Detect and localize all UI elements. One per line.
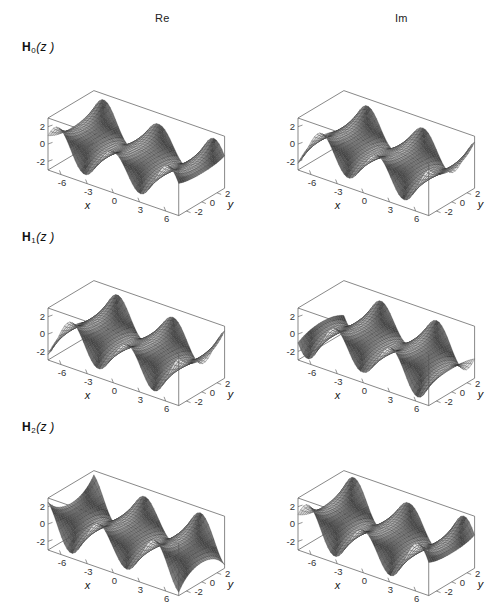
y-tick-label: -2 (444, 586, 452, 597)
z-axis: -202 (287, 311, 303, 357)
z-tick-label: -2 (287, 536, 295, 547)
x-tick-label: -6 (308, 557, 316, 568)
x-tick-label: -3 (84, 186, 92, 197)
surface-mesh (48, 475, 225, 593)
x-tick-label: 0 (112, 195, 117, 206)
y-axis-title: y (477, 578, 485, 590)
x-tick-label: -6 (308, 177, 316, 188)
x-tick-label: 0 (362, 195, 367, 206)
z-axis: -202 (37, 501, 53, 547)
surface-svg: -202-6-3036x-202y (14, 396, 246, 574)
z-axis: -202 (37, 121, 53, 167)
surface-mesh (298, 477, 475, 575)
surface-mesh (298, 106, 475, 200)
y-axis-title: y (227, 578, 235, 590)
z-tick-label: 2 (40, 311, 45, 322)
z-tick-label: 0 (40, 518, 45, 529)
x-tick-label: 0 (362, 385, 367, 396)
z-tick-label: 2 (290, 501, 295, 512)
surface-svg: -202-6-3036x-202y (14, 16, 246, 194)
y-tick-label: -2 (194, 586, 202, 597)
z-tick-label: -2 (287, 156, 295, 167)
z-tick-label: 2 (290, 311, 295, 322)
surface-panel-h2-re: -202-6-3036x-202y (14, 396, 246, 574)
y-tick-label: 0 (210, 577, 215, 588)
z-tick-label: -2 (287, 346, 295, 357)
surface-panel-h1-re: -202-6-3036x-202y (14, 206, 246, 384)
x-tick-label: -3 (84, 376, 92, 387)
y-axis: -202y (436, 568, 484, 597)
x-tick-label: -3 (334, 186, 342, 197)
z-tick-label: -2 (37, 536, 45, 547)
z-tick-label: 2 (40, 121, 45, 132)
x-tick-label: -3 (334, 566, 342, 577)
surface-svg: -202-6-3036x-202y (14, 206, 246, 384)
surface-mesh (298, 301, 475, 397)
y-axis: -202y (186, 568, 234, 597)
z-tick-label: -2 (37, 346, 45, 357)
z-axis: -202 (37, 311, 53, 357)
z-tick-label: 0 (40, 328, 45, 339)
x-tick-label: 0 (112, 575, 117, 586)
z-tick-label: 0 (290, 518, 295, 529)
surface-svg: -202-6-3036x-202y (264, 396, 496, 574)
figure-surface-grid: Re Im H0(z ) H1(z ) H2(z ) -202-6-3036x-… (0, 0, 503, 608)
x-tick-label: 0 (362, 575, 367, 586)
x-axis-title: x (84, 579, 91, 591)
x-tick-label: -6 (308, 367, 316, 378)
x-tick-label: -3 (334, 376, 342, 387)
surface-panel-h1-im: -202-6-3036x-202y (264, 206, 496, 384)
x-axis-title: x (334, 579, 341, 591)
z-axis: -202 (287, 501, 303, 547)
x-tick-label: -6 (58, 367, 66, 378)
surface-mesh (48, 295, 225, 391)
x-tick-label: -3 (84, 566, 92, 577)
x-tick-label: 0 (112, 385, 117, 396)
x-axis: -6-3036x (58, 550, 169, 604)
z-tick-label: 2 (290, 121, 295, 132)
z-tick-label: 0 (40, 138, 45, 149)
z-tick-label: 2 (40, 501, 45, 512)
surface-panel-h2-im: -202-6-3036x-202y (264, 396, 496, 574)
x-tick-label: 3 (388, 584, 393, 595)
z-tick-label: 0 (290, 328, 295, 339)
y-tick-label: 0 (460, 577, 465, 588)
surface-svg: -202-6-3036x-202y (264, 16, 496, 194)
x-tick-label: 3 (138, 584, 143, 595)
surface-mesh (48, 100, 225, 194)
x-tick-label: -6 (58, 557, 66, 568)
z-tick-label: -2 (37, 156, 45, 167)
x-tick-label: -6 (58, 177, 66, 188)
surface-panel-h0-re: -202-6-3036x-202y (14, 16, 246, 194)
x-tick-label: 6 (414, 593, 419, 604)
x-tick-label: 6 (164, 593, 169, 604)
surface-panel-h0-im: -202-6-3036x-202y (264, 16, 496, 194)
surface-svg: -202-6-3036x-202y (264, 206, 496, 384)
z-tick-label: 0 (290, 138, 295, 149)
